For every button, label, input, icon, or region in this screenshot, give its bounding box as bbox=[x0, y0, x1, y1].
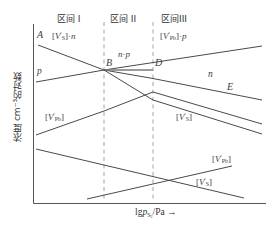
annotation-region3-product: [V′Pb]·p bbox=[160, 32, 186, 42]
curve-label-n: n bbox=[208, 70, 213, 80]
annotation-region1-product: [V′S]·n bbox=[52, 32, 76, 42]
region-header-3: 区间III bbox=[161, 15, 187, 24]
region-header-2: 区间 II bbox=[110, 15, 136, 24]
curve-label-vpb-lower: [V′Pb] bbox=[212, 155, 231, 165]
point-label-D: D bbox=[155, 58, 162, 68]
curve-label-vs-upper: [V′S] bbox=[176, 113, 192, 123]
y-axis-title: 浓度 cm⁻³的对数 bbox=[10, 72, 23, 142]
curve-vpb-upper-to-vs-upper bbox=[36, 92, 262, 135]
point-label-B: B bbox=[106, 58, 112, 68]
x-axis-arrow-icon: → bbox=[167, 207, 177, 217]
curve-label-vs-lower: [V′S] bbox=[196, 178, 212, 188]
curve-p bbox=[36, 46, 262, 82]
brouwer-diagram-figure: 区间 I 区间 II 区间III A B D E [V′S]·n n·p [V′… bbox=[0, 0, 272, 225]
x-axis-unit: /Pa bbox=[153, 207, 165, 217]
x-axis-title: lgpS2/Pa → bbox=[135, 207, 177, 219]
region-header-1: 区间 I bbox=[57, 15, 81, 24]
point-label-A: A bbox=[37, 30, 43, 40]
curve-label-vpb-upper: [V′Pb] bbox=[45, 113, 64, 123]
annotation-region2-product: n·p bbox=[118, 50, 130, 59]
point-label-E: E bbox=[227, 82, 233, 92]
curve-label-p: p bbox=[37, 67, 42, 77]
